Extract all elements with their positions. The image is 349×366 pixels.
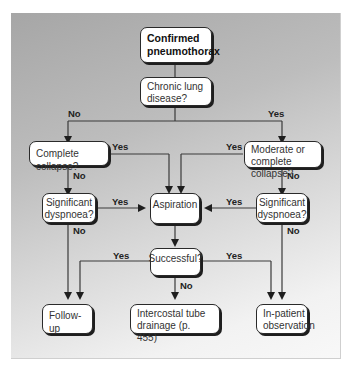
node-aspiration: Aspiration — [150, 193, 200, 224]
node-label: Confirmed pneumothorax — [147, 32, 220, 58]
node-intercostal-tube-drainage: Intercostal tube drainage (p. 455) — [130, 304, 220, 334]
node-significant-dyspnoea-right: Significant dyspnoea? — [256, 193, 308, 223]
node-moderate-or-complete-collapse: Moderate or complete collapse? — [244, 141, 322, 168]
node-label: In-patient observation — [263, 308, 315, 332]
edge-label-complete-no: No — [73, 170, 86, 181]
edge-label-chronic-no: No — [68, 108, 81, 119]
edge-label-successful-no: No — [180, 280, 193, 291]
node-label: Aspiration — [153, 198, 197, 211]
edge-label-complete-yes: Yes — [112, 141, 128, 152]
node-label: Significant dyspnoea? — [45, 197, 94, 221]
node-label: Complete collapse? — [36, 147, 102, 173]
edge-label-dyspnoea-left-no: No — [73, 225, 86, 236]
node-in-patient-observation: In-patient observation — [256, 304, 308, 334]
node-successful: Successful? — [150, 248, 201, 276]
edge-label-chronic-yes: Yes — [268, 108, 284, 119]
edge-label-moderate-no: No — [287, 170, 300, 181]
node-significant-dyspnoea-left: Significant dyspnoea? — [42, 193, 96, 223]
edge-label-moderate-yes: Yes — [226, 141, 242, 152]
node-label: Intercostal tube drainage (p. 455) — [137, 308, 213, 344]
edge-label-successful-yes-right: Yes — [226, 250, 242, 261]
node-complete-collapse: Complete collapse? — [29, 141, 109, 166]
node-follow-up: Follow-up — [42, 304, 93, 334]
edge-label-successful-yes-left: Yes — [113, 250, 129, 261]
edge-label-dyspnoea-right-yes: Yes — [226, 196, 242, 207]
node-label: Significant dyspnoea? — [258, 197, 307, 221]
node-label: Follow-up — [49, 309, 86, 335]
node-label: Chronic lung disease? — [147, 81, 205, 105]
edge-label-dyspnoea-left-yes: Yes — [112, 196, 128, 207]
node-label: Successful? — [149, 252, 203, 265]
node-label: Moderate or complete collapse? — [251, 144, 315, 180]
node-chronic-lung-disease: Chronic lung disease? — [140, 77, 212, 106]
node-confirmed-pneumothorax: Confirmed pneumothorax — [140, 27, 212, 63]
edge-label-dyspnoea-right-no: No — [287, 225, 300, 236]
